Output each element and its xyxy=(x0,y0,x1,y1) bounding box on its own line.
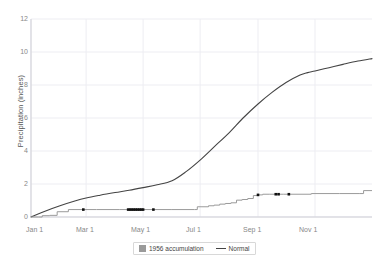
legend-item-accumulation[interactable]: 1956 accumulation xyxy=(139,245,204,253)
legend-item-normal[interactable]: Normal xyxy=(216,245,250,253)
chart-legend: 1956 accumulation Normal xyxy=(133,242,256,255)
series-step-accumulation xyxy=(31,191,372,217)
precipitation-accumulation-chart: Precipitation (inches) 12 10 8 6 4 2 0 J… xyxy=(0,0,383,266)
grid-lines xyxy=(31,19,372,217)
legend-line-icon xyxy=(216,248,226,249)
legend-swatch-icon xyxy=(139,245,146,252)
legend-label-accumulation: 1956 accumulation xyxy=(149,245,204,253)
plot-area xyxy=(0,0,383,266)
legend-label-normal: Normal xyxy=(229,245,250,253)
event-marker-dots xyxy=(82,193,290,211)
